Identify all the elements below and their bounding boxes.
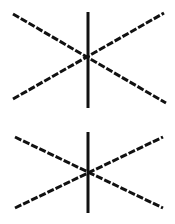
- star-figure-top: [13, 12, 166, 108]
- star-figure-bottom: [15, 132, 163, 213]
- diagram-canvas: [0, 0, 175, 224]
